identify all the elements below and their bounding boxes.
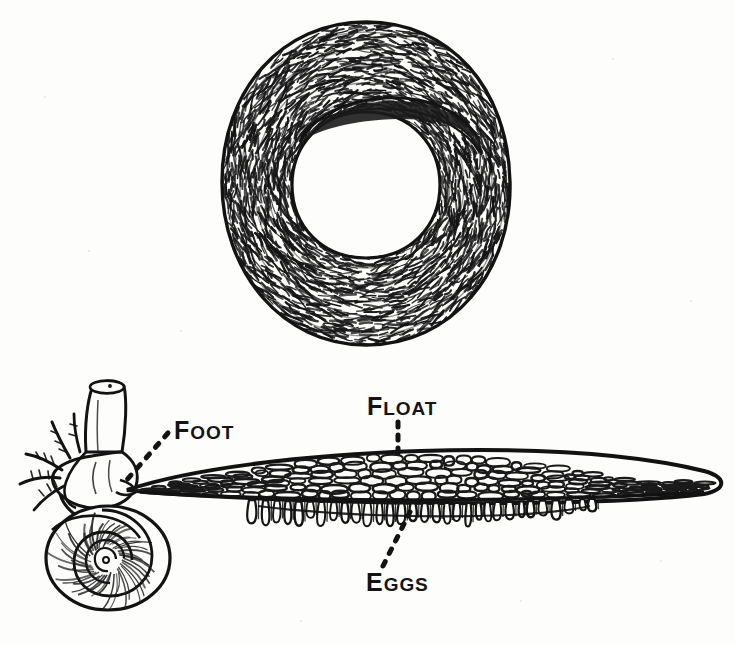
paper-speck <box>300 620 302 622</box>
label-foot-rest: OOT <box>190 422 234 443</box>
label-eggs-rest: GGS <box>384 574 429 595</box>
label-float-initial: F <box>367 392 383 420</box>
snail-shell <box>46 506 170 610</box>
bubble-float <box>127 450 721 503</box>
paper-speck <box>44 96 46 98</box>
paper-speck <box>180 330 182 332</box>
illustration-plate: FOOT FLOAT EGGS <box>0 0 735 645</box>
label-eggs-initial: E <box>366 568 384 596</box>
label-foot: FOOT <box>174 418 234 443</box>
paper-speck <box>88 250 90 252</box>
paper-speck <box>520 600 522 602</box>
illustration-canvas <box>0 0 735 645</box>
paper-speck <box>612 58 614 60</box>
siphon-opening <box>90 381 124 394</box>
egg-capsule-fringe <box>247 499 598 527</box>
label-float-rest: LOAT <box>383 398 437 419</box>
paper-speck <box>690 300 692 302</box>
siphon-dot <box>108 384 112 388</box>
egg-mass-coil <box>210 10 530 360</box>
paper-speck <box>660 560 662 562</box>
label-eggs: EGGS <box>366 570 429 595</box>
snail-siphon <box>85 381 125 452</box>
sea-snail <box>20 381 170 611</box>
label-float: FLOAT <box>367 394 437 419</box>
label-foot-initial: F <box>174 416 190 444</box>
